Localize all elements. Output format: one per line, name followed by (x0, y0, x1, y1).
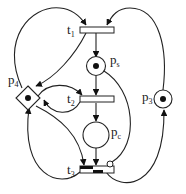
arc-p4-t1 (14, 8, 86, 88)
place-ps[interactable] (87, 57, 106, 76)
label-pc: pc (111, 124, 122, 141)
token (93, 63, 99, 69)
token (160, 96, 166, 102)
arc-t3-p4 (28, 108, 80, 179)
label-t2: t2 (67, 91, 75, 108)
label-t3: t3 (67, 162, 75, 179)
arc-ps-t3-inhibitor (104, 71, 130, 162)
transition-t2[interactable] (80, 96, 114, 102)
label-p3: p3 (142, 89, 153, 106)
label-ps: ps (110, 52, 120, 69)
inhibitor-arc-head (107, 161, 113, 167)
arc-t3-p3 (106, 110, 164, 183)
arc-p4-t2 (38, 85, 82, 96)
arc-p4-t3 (36, 106, 84, 165)
transition-t1[interactable] (80, 27, 114, 33)
place-p3[interactable] (154, 90, 172, 108)
petri-net-diagram: t1 ps t2 pc t3 p3 p4 (0, 0, 186, 194)
token (25, 95, 31, 101)
arc-t1-p4 (36, 33, 86, 86)
place-pc[interactable] (83, 122, 109, 148)
arc-p3-t1 (107, 8, 164, 90)
label-t1: t1 (67, 22, 75, 39)
